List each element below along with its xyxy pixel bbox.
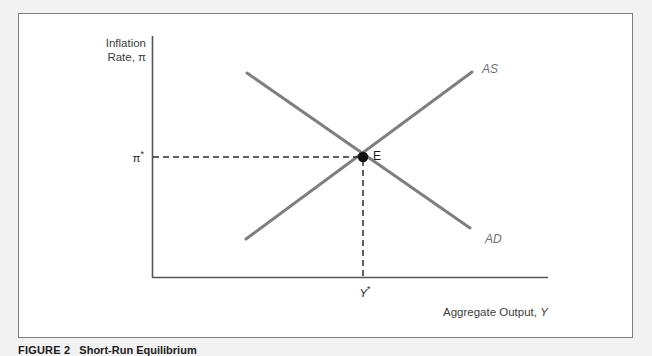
figure-caption: FIGURE 2Short-Run Equilibrium: [18, 344, 197, 356]
figure-caption-title: Short-Run Equilibrium: [79, 344, 196, 356]
axis-label-x-variable: Y: [540, 306, 548, 318]
ad-curve: [247, 73, 470, 228]
axis-label-x: Aggregate Output, Y: [443, 306, 548, 320]
figure-caption-number: FIGURE 2: [18, 344, 70, 356]
axis-label-x-text: Aggregate Output,: [443, 306, 540, 318]
curve-label-as: AS: [482, 62, 498, 76]
equilibrium-point-label: E: [373, 149, 381, 163]
y-star-superscript: *: [367, 284, 371, 294]
equilibrium-point-dot: [358, 152, 368, 162]
x-axis-tick-label-y-star: Y*: [352, 284, 378, 300]
axis-label-y: Inflation Rate, π: [36, 37, 146, 64]
y-axis-tick-label-pi-star: π*: [118, 149, 144, 165]
y-symbol: Y: [359, 287, 367, 299]
curve-label-ad: AD: [485, 232, 502, 246]
pi-star-superscript: *: [140, 149, 144, 159]
